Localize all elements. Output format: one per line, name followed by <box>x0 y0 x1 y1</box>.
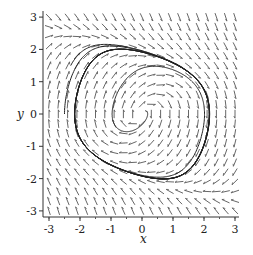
x-tick-label: -3 <box>44 223 55 236</box>
x-tick-label: -1 <box>106 223 117 236</box>
x-tick-label: 2 <box>201 223 208 236</box>
y-tick-label: 0 <box>30 108 37 121</box>
y-tick-label: -3 <box>26 205 37 218</box>
direction-field-plot: -3-2-10123 -3-2-10123 x y <box>0 0 253 255</box>
y-tick-label: 1 <box>30 76 37 89</box>
y-tick-label: -2 <box>26 173 37 186</box>
y-axis-label: y <box>16 107 24 121</box>
y-tick-label: 2 <box>30 43 37 56</box>
x-axis-label: x <box>140 232 147 246</box>
y-ticks: -3-2-10123 <box>26 11 43 218</box>
y-tick-label: 3 <box>30 11 37 24</box>
x-tick-label: 1 <box>170 223 177 236</box>
spiral-from-origin-curve <box>75 49 210 179</box>
y-tick-label: -1 <box>26 140 37 153</box>
x-tick-label: -2 <box>75 223 86 236</box>
x-tick-label: 3 <box>232 223 239 236</box>
